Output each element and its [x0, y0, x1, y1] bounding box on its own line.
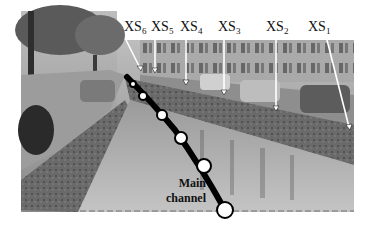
canal-figure: XS6 XS5 XS4 XS3 XS2 XS1 Main channel [0, 0, 374, 232]
label-xs3: XS3 [218, 20, 240, 38]
label-xs2: XS2 [266, 20, 288, 38]
label-xs6: XS6 [124, 20, 146, 38]
marker-xs6 [130, 81, 136, 87]
marker-xs4 [157, 110, 167, 120]
marker-xs2 [197, 159, 211, 173]
marker-xs3 [175, 132, 187, 144]
label-xs4: XS4 [180, 20, 202, 38]
main-channel-label-line2: channel [160, 191, 206, 206]
label-xs1: XS1 [308, 20, 330, 38]
marker-xs5 [139, 92, 147, 100]
main-channel-label: Main channel [160, 176, 206, 206]
marker-xs1 [217, 202, 233, 218]
label-xs5: XS5 [151, 20, 173, 38]
main-channel-label-line1: Main [160, 176, 206, 191]
